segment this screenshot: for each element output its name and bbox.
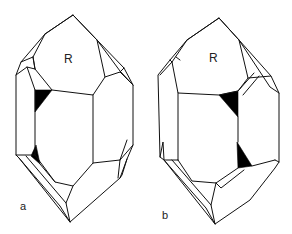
trapezohedron-face-upper [35,90,52,112]
panel-label-b: b [162,209,168,221]
trapezohedron-face-lower [237,142,252,168]
face-label-r: R [209,51,218,65]
outline [158,18,279,224]
crystal-figure: R a R b [0,0,292,234]
outline [16,15,133,222]
crystal-b: R b [158,18,279,224]
panel-label-a: a [20,200,27,212]
face-label-r: R [64,52,73,66]
crystal-a: R a [16,15,133,222]
